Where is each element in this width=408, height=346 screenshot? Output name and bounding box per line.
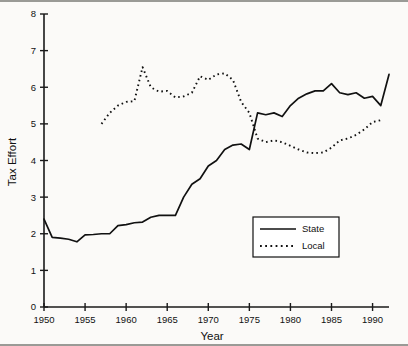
y-axis-title: Tax Effort — [6, 137, 18, 186]
legend-label-local: Local — [302, 240, 325, 251]
y-tick-label: 7 — [31, 45, 36, 56]
y-tick-label: 2 — [31, 228, 36, 239]
y-tick-label: 4 — [31, 155, 36, 166]
x-tick-label: 1990 — [362, 314, 383, 325]
x-tick-label: 1985 — [321, 314, 342, 325]
chart-svg: 012345678 195019551960196519701975198019… — [0, 2, 408, 346]
y-tick-label: 1 — [31, 265, 36, 276]
x-axis: 195019551960196519701975198019851990 — [33, 303, 389, 325]
plot-area: 012345678 195019551960196519701975198019… — [0, 2, 408, 346]
y-axis: 012345678 — [31, 8, 48, 312]
legend-box — [253, 217, 339, 257]
legend-label-state: State — [302, 223, 324, 234]
x-tick-label: 1970 — [198, 314, 219, 325]
x-tick-label: 1955 — [75, 314, 96, 325]
data-series-group — [44, 67, 389, 242]
chart-legend: StateLocal — [253, 217, 339, 257]
chart-figure: 012345678 195019551960196519701975198019… — [0, 0, 408, 346]
y-tick-label: 6 — [31, 82, 36, 93]
x-tick-label: 1950 — [33, 314, 54, 325]
x-axis-title: Year — [200, 330, 223, 342]
y-tick-label: 0 — [31, 301, 36, 312]
x-tick-label: 1975 — [239, 314, 260, 325]
y-tick-label: 5 — [31, 118, 36, 129]
y-tick-label: 3 — [31, 192, 36, 203]
series-line-local — [102, 67, 381, 153]
x-tick-label: 1965 — [157, 314, 178, 325]
x-tick-label: 1980 — [280, 314, 301, 325]
y-tick-label: 8 — [31, 8, 36, 19]
x-tick-label: 1960 — [116, 314, 137, 325]
